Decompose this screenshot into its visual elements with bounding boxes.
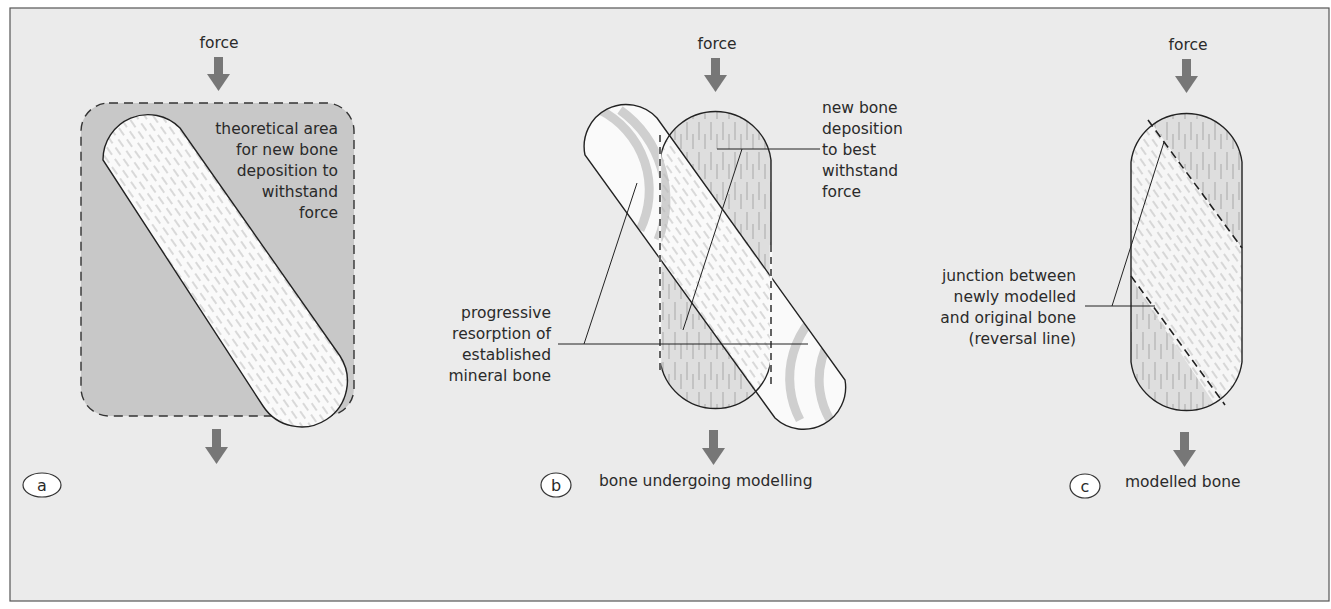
panel-c-label: c bbox=[1070, 474, 1100, 498]
svg-text:progressive: progressive bbox=[461, 304, 551, 322]
panel-c-caption: modelled bone bbox=[1125, 473, 1241, 491]
panel-b-caption: bone undergoing modelling bbox=[599, 472, 813, 490]
svg-text:withstand: withstand bbox=[822, 162, 898, 180]
panel-b-force-label: force bbox=[697, 35, 736, 53]
svg-text:to best: to best bbox=[822, 141, 876, 159]
panel-c-force-label: force bbox=[1168, 36, 1207, 54]
svg-text:mineral bone: mineral bone bbox=[448, 367, 551, 385]
svg-text:deposition: deposition bbox=[822, 120, 903, 138]
panel-a-label: a bbox=[23, 473, 61, 497]
svg-text:for new bone: for new bone bbox=[236, 141, 338, 159]
svg-text:theoretical area: theoretical area bbox=[215, 120, 338, 138]
panel-a-force-label: force bbox=[199, 34, 238, 52]
panel-c-bone bbox=[1120, 100, 1250, 430]
svg-text:force: force bbox=[822, 183, 861, 201]
svg-text:resorption of: resorption of bbox=[452, 325, 551, 343]
bone-modelling-figure: force theoretical area for new bone depo… bbox=[0, 0, 1331, 609]
svg-text:junction between: junction between bbox=[941, 267, 1076, 285]
svg-text:established: established bbox=[462, 346, 551, 364]
panel-b-label: b bbox=[541, 473, 571, 497]
svg-text:(reversal line): (reversal line) bbox=[968, 330, 1076, 348]
svg-text:newly modelled: newly modelled bbox=[954, 288, 1076, 306]
svg-text:b: b bbox=[551, 476, 561, 495]
svg-text:deposition to: deposition to bbox=[237, 162, 338, 180]
svg-text:force: force bbox=[299, 204, 338, 222]
svg-text:c: c bbox=[1081, 477, 1090, 496]
svg-text:new bone: new bone bbox=[822, 99, 898, 117]
svg-text:and original bone: and original bone bbox=[940, 309, 1076, 327]
svg-text:withstand: withstand bbox=[262, 183, 338, 201]
svg-text:a: a bbox=[37, 476, 47, 495]
